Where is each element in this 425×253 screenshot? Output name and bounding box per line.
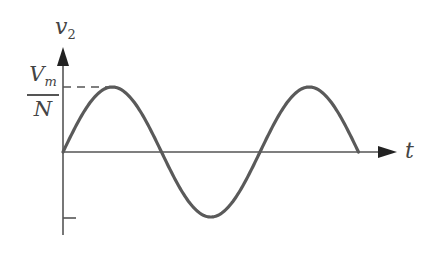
y-axis-label-subscript: 2 bbox=[67, 27, 75, 42]
y-axis-label: v2 bbox=[55, 14, 76, 42]
peak-label-m: m bbox=[44, 74, 56, 89]
peak-label-denominator: N bbox=[26, 96, 60, 122]
peak-label-numerator: Vm bbox=[26, 62, 60, 94]
x-axis-arrow-icon bbox=[378, 146, 397, 158]
y-axis-label-main: v bbox=[55, 14, 67, 39]
x-axis-label: t bbox=[405, 138, 414, 163]
peak-label-v: V bbox=[29, 62, 44, 86]
peak-label: Vm N bbox=[26, 62, 60, 122]
